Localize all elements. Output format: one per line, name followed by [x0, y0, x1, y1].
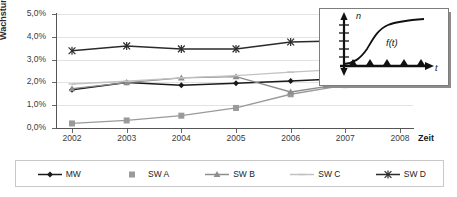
inset-t-axis-label: t [435, 63, 438, 73]
inset-n-axis-label: n [356, 11, 361, 21]
legend-symbol [204, 169, 230, 180]
legend-label: SW D [404, 169, 426, 179]
legend-label: SW A [148, 169, 169, 179]
legend-item-sw-b[interactable]: SW B [187, 169, 272, 179]
legend-marker-square-icon [119, 169, 145, 179]
chart-legend: MWSW ASW BSW CSW D [15, 160, 444, 187]
inset-diffusion-curve: n t f(t) [319, 8, 449, 86]
data-point-square [129, 171, 135, 177]
data-point-diamond [233, 80, 239, 86]
legend-label: MW [66, 169, 81, 179]
legend-symbol [375, 169, 401, 180]
legend-symbol [37, 169, 63, 180]
legend-item-sw-d[interactable]: SW D [358, 169, 443, 179]
inset-svg [320, 9, 448, 85]
legend-marker-line-icon [289, 169, 315, 179]
data-point-diamond [47, 171, 53, 177]
data-point-square [178, 113, 184, 119]
legend-item-sw-a[interactable]: SW A [101, 169, 186, 179]
legend-symbol [289, 169, 315, 180]
legend-item-sw-c[interactable]: SW C [272, 169, 357, 179]
legend-marker-triangle-icon [204, 169, 230, 179]
legend-label: SW B [233, 169, 255, 179]
legend-symbol [119, 169, 145, 180]
data-point-square [124, 117, 130, 123]
chart-figure: Wachstum Zeit 0,0%1,0%2,0%3,0%4,0%5,0% 2… [0, 0, 457, 197]
legend-marker-diamond-icon [37, 169, 63, 179]
legend-item-mw[interactable]: MW [16, 169, 101, 179]
legend-label: SW C [318, 169, 340, 179]
legend-marker-asterisk-icon [375, 169, 401, 179]
data-point-diamond [178, 82, 184, 88]
data-point-square [69, 120, 75, 126]
data-point-diamond [288, 78, 294, 84]
data-point-square [233, 105, 239, 111]
inset-curve-label: f(t) [386, 37, 398, 48]
